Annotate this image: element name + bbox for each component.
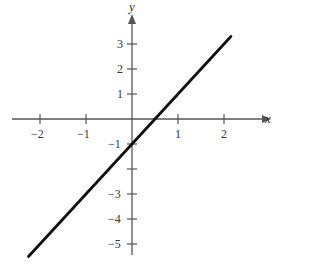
y-tick-label: −4 (108, 213, 121, 225)
y-tick-label: 1 (117, 88, 123, 100)
y-tick-label: 3 (117, 38, 123, 50)
y-tick-label: 2 (117, 63, 123, 75)
x-tick-label: −2 (31, 128, 44, 140)
x-tick-label: −1 (77, 128, 90, 140)
y-tick-label: −5 (108, 238, 121, 250)
y-axis-arrow-icon (128, 14, 136, 24)
y-axis-label: y (129, 0, 135, 13)
y-tick-label: −3 (108, 188, 121, 200)
x-tick-label: 2 (221, 128, 227, 140)
x-tick-label: 1 (175, 128, 181, 140)
y-tick-label: −1 (108, 138, 121, 150)
x-axis-label: x (265, 112, 271, 125)
